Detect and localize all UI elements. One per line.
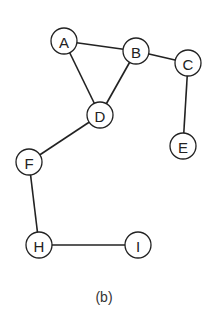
node-f: F bbox=[16, 149, 42, 175]
node-b: B bbox=[123, 38, 149, 64]
node-label: F bbox=[24, 155, 33, 172]
node-label: B bbox=[131, 44, 141, 61]
node-a: A bbox=[51, 28, 77, 54]
nodes: ABCDEFHI bbox=[16, 28, 201, 258]
node-h: H bbox=[26, 232, 52, 258]
node-label: E bbox=[178, 139, 188, 156]
node-e: E bbox=[170, 133, 196, 159]
node-label: I bbox=[136, 238, 140, 255]
node-i: I bbox=[125, 232, 151, 258]
figure-caption: (b) bbox=[95, 289, 112, 305]
node-label: H bbox=[34, 238, 45, 255]
node-label: D bbox=[95, 108, 106, 125]
node-label: A bbox=[59, 34, 69, 51]
node-label: C bbox=[183, 56, 194, 73]
graph-diagram: ABCDEFHI (b) bbox=[0, 0, 211, 310]
node-d: D bbox=[87, 102, 113, 128]
node-c: C bbox=[175, 50, 201, 76]
edges bbox=[29, 41, 188, 245]
